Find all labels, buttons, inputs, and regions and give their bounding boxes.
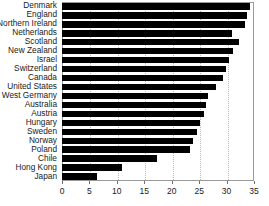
bar-row <box>62 155 254 161</box>
category-label: Japan <box>34 172 57 181</box>
bar-row <box>62 120 254 126</box>
tick-mark <box>89 181 90 184</box>
bar-row <box>62 39 254 45</box>
bar-row <box>62 57 254 63</box>
bar <box>62 3 250 9</box>
bar <box>62 48 233 54</box>
bar <box>62 93 208 99</box>
bar <box>62 155 157 161</box>
bars-layer <box>62 2 254 181</box>
bar <box>62 111 204 117</box>
tick-label: 10 <box>112 186 121 196</box>
tick-mark <box>62 181 63 184</box>
bar <box>62 120 200 126</box>
bar <box>62 12 247 18</box>
bar <box>62 21 245 27</box>
tick-label: 15 <box>140 186 149 196</box>
bar-row <box>62 75 254 81</box>
tick-mark <box>199 181 200 184</box>
bar-row <box>62 84 254 90</box>
bar <box>62 138 193 144</box>
tick-mark <box>227 181 228 184</box>
bar <box>62 84 216 90</box>
value-axis-ticks: 05101520253035 <box>62 181 254 205</box>
bar <box>62 66 226 72</box>
bar <box>62 173 97 179</box>
tick-label: 25 <box>194 186 203 196</box>
tick-label: 20 <box>167 186 176 196</box>
tick-mark <box>254 181 255 184</box>
bar-row <box>62 111 254 117</box>
bar-row <box>62 173 254 179</box>
bar-row <box>62 30 254 36</box>
bar-row <box>62 129 254 135</box>
bar-row <box>62 164 254 170</box>
bar-row <box>62 138 254 144</box>
tick-label: 0 <box>60 186 65 196</box>
bar <box>62 39 239 45</box>
tick-mark <box>117 181 118 184</box>
bar-row <box>62 12 254 18</box>
bar <box>62 146 190 152</box>
bar-row <box>62 66 254 72</box>
bar-row <box>62 93 254 99</box>
bar <box>62 164 122 170</box>
bar <box>62 30 232 36</box>
tick-label: 35 <box>249 186 258 196</box>
bar-chart: DenmarkEnglandNorthern IrelandNetherland… <box>0 0 269 206</box>
tick-mark <box>144 181 145 184</box>
tick-mark <box>172 181 173 184</box>
category-axis-labels: DenmarkEnglandNorthern IrelandNetherland… <box>0 2 60 181</box>
bar <box>62 129 197 135</box>
tick-label: 5 <box>87 186 92 196</box>
bar-row <box>62 3 254 9</box>
bar-row <box>62 48 254 54</box>
bar-row <box>62 146 254 152</box>
bar-row <box>62 102 254 108</box>
bar <box>62 102 206 108</box>
tick-label: 30 <box>222 186 231 196</box>
bar <box>62 75 223 81</box>
bar-row <box>62 21 254 27</box>
bar <box>62 57 229 63</box>
